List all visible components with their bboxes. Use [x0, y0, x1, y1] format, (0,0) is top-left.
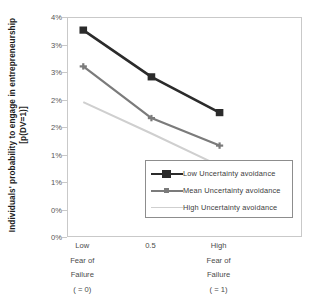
y-tick-label: 1%: [36, 178, 62, 187]
chart-figure: Individuals' probability to engage in en…: [0, 0, 310, 308]
y-tick-label: 3%: [36, 68, 62, 77]
legend-symbol-line-icon: [151, 202, 183, 214]
x-tick-label-group-2: HighFear ofFailure( = 1): [189, 239, 249, 297]
y-axis-title-text: Individuals' probability to engage in en…: [7, 11, 29, 239]
legend-item-low[interactable]: Low Uncertainty avoidance: [146, 165, 292, 182]
x-tick-label-group-0: LowFear ofFailure( = 0): [52, 239, 112, 297]
data-point-marker: [216, 109, 224, 116]
x-tick-label-line: [120, 268, 180, 283]
y-axis-title: Individuals' probability to engage in en…: [3, 11, 33, 239]
legend-symbol-plus-icon: [151, 185, 183, 197]
data-point-marker: [216, 142, 223, 148]
data-point-marker: [148, 73, 156, 80]
legend-label-low: Low Uncertainty avoidance: [183, 169, 276, 178]
y-tick-label: 0%: [36, 205, 62, 214]
y-tick-label: 2%: [36, 95, 62, 104]
x-tick-label-line: [120, 283, 180, 298]
x-tick-label-line: Failure: [189, 268, 249, 283]
y-tick-mark: [62, 237, 67, 238]
x-tick-label-line: ( = 1): [189, 283, 249, 298]
legend-item-mean[interactable]: Mean Uncertainty avoidance: [146, 182, 292, 199]
x-tick-label-line: Fear of: [189, 254, 249, 269]
chart-legend: Low Uncertainty avoidance Mean Uncertain…: [145, 160, 293, 218]
x-tick-label-line: ( = 0): [52, 283, 112, 298]
y-tick-label: 1%: [36, 150, 62, 159]
legend-item-high[interactable]: High Uncertainty avoidance: [146, 199, 292, 216]
legend-label-high: High Uncertainty avoidance: [183, 203, 277, 212]
data-point-marker: [79, 27, 87, 34]
y-tick-label: 2%: [36, 123, 62, 132]
x-tick-label-line: Low: [52, 239, 112, 254]
legend-label-mean: Mean Uncertainty avoidance: [183, 186, 281, 195]
x-tick-label-line: 0.5: [120, 239, 180, 254]
x-tick-label-line: Fear of: [52, 254, 112, 269]
series-line-2: [83, 102, 219, 166]
x-tick-label-line: High: [189, 239, 249, 254]
y-tick-label: 4%: [36, 13, 62, 22]
legend-symbol-square-icon: [151, 168, 183, 180]
y-tick-label: 3%: [36, 40, 62, 49]
series-line-0: [83, 30, 219, 113]
x-tick-label-line: [120, 254, 180, 269]
x-tick-label-line: Failure: [52, 268, 112, 283]
x-tick-label-group-1: 0.5: [120, 239, 180, 297]
